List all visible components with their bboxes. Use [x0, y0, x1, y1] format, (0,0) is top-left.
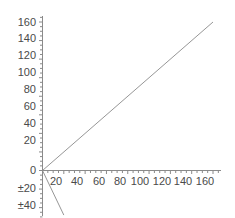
chart-container: 160140120100806040200±20±40 204060801001… [0, 0, 235, 218]
y-tick-label: 60 [0, 101, 36, 112]
y-tick-label: 40 [0, 118, 36, 129]
x-tick-label: 160 [194, 176, 216, 187]
x-tick-label: 20 [45, 176, 67, 187]
y-tick-label: 20 [0, 135, 36, 146]
y-axis-ticks [39, 17, 43, 217]
y-tick-label: 100 [0, 67, 36, 78]
x-tick-label: 80 [109, 176, 131, 187]
y-tick-label: 0 [0, 165, 36, 176]
data-line-line-1 [43, 22, 214, 171]
y-tick-label: 140 [0, 33, 36, 44]
x-tick-label: 100 [129, 176, 151, 187]
y-tick-label: ±40 [0, 200, 36, 211]
y-tick-label: 80 [0, 84, 36, 95]
x-tick-label: 60 [88, 176, 110, 187]
y-tick-label: 160 [0, 17, 36, 28]
y-tick-label: ±20 [0, 183, 36, 194]
x-tick-label: 40 [66, 176, 88, 187]
x-tick-label: 120 [151, 176, 173, 187]
x-tick-label: 140 [172, 176, 194, 187]
x-axis-ticks [43, 171, 219, 175]
y-tick-label: 120 [0, 50, 36, 61]
